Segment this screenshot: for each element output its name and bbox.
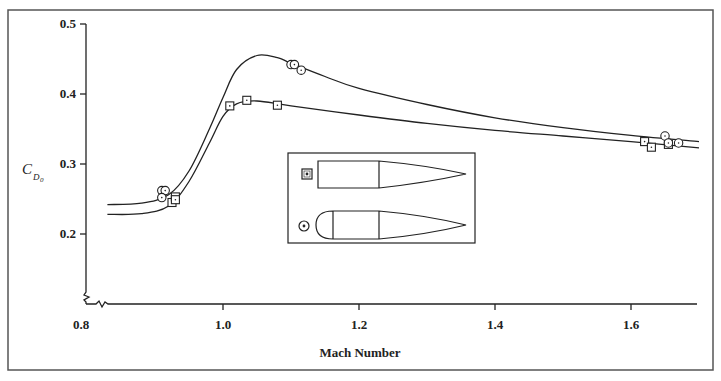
square-data-point [226,102,234,110]
y-tick-label: 0.4 [60,86,77,101]
square-data-point [243,96,251,104]
svg-text:0: 0 [40,176,44,184]
circle-data-point [664,139,672,147]
x-tick-label: 1.0 [215,317,231,332]
circle-data-point [158,193,166,201]
square-data-point [171,196,179,204]
svg-text:C: C [22,161,33,177]
x-ticks: 0.81.01.21.41.6 [73,304,640,332]
circle-data-point [674,139,682,147]
x-tick-label: 1.4 [487,317,504,332]
x-tick-label: 1.6 [623,317,640,332]
square-data-point [647,143,655,151]
y-tick-label: 0.2 [60,226,76,241]
y-tick-label: 0.5 [60,16,77,31]
x-tick-label: 0.8 [73,317,90,332]
square-data-point [273,101,281,109]
chart-figure: 0.20.30.40.5 0.81.01.21.41.6 Mach Number… [0,0,721,381]
x-axis-title: Mach Number [319,345,400,360]
x-tick-label: 1.2 [351,317,367,332]
svg-text:D: D [32,172,40,182]
x-axis-line [86,301,697,307]
y-ticks: 0.20.30.40.5 [60,16,86,241]
y-tick-label: 0.3 [60,156,77,171]
y-axis-title: C D 0 [22,161,44,184]
legend-inset [288,153,475,243]
circle-data-point [297,66,305,74]
